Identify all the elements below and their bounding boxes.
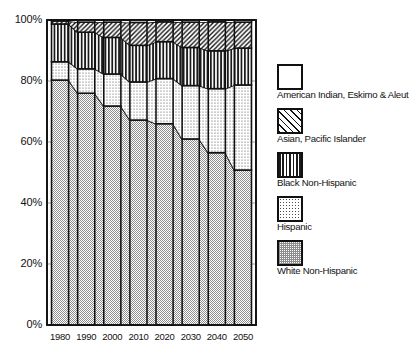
segment-hispanic bbox=[156, 79, 173, 124]
band-connector bbox=[199, 47, 208, 88]
band-connector bbox=[225, 22, 234, 51]
column-2000 bbox=[104, 20, 121, 325]
band-connector bbox=[199, 139, 208, 325]
segment-hispanic bbox=[182, 86, 199, 139]
y-axis-tick-label: 20% bbox=[0, 257, 42, 269]
column-1980 bbox=[52, 20, 69, 325]
segment-black-non-hispanic bbox=[234, 48, 251, 85]
segment-asian-pacific-islander bbox=[208, 22, 225, 51]
segment-black-non-hispanic bbox=[130, 45, 147, 82]
segment-asian-pacific-islander bbox=[130, 22, 147, 45]
band-connector bbox=[173, 124, 182, 325]
segment-black-non-hispanic bbox=[52, 24, 69, 62]
segment-asian-pacific-islander bbox=[104, 22, 121, 37]
legend-item-label: Black Non-Hispanic bbox=[277, 177, 419, 189]
column-2010 bbox=[130, 20, 147, 325]
band-connector bbox=[225, 153, 234, 325]
band-connector bbox=[225, 48, 234, 89]
segment-black-non-hispanic bbox=[156, 42, 173, 79]
y-axis-tick-label: 80% bbox=[0, 74, 42, 86]
band-connector bbox=[199, 22, 208, 51]
legend-item[interactable]: White Non-Hispanic bbox=[277, 240, 419, 277]
stacked-area-plot bbox=[40, 12, 265, 332]
band-connector bbox=[69, 80, 78, 325]
band-connector bbox=[147, 79, 156, 124]
segment-asian-pacific-islander bbox=[78, 22, 95, 32]
band-connector bbox=[121, 106, 130, 325]
legend-swatch-solid-white-icon bbox=[277, 64, 303, 90]
segment-black-non-hispanic bbox=[78, 32, 95, 69]
segment-black-non-hispanic bbox=[182, 47, 199, 85]
column-2020 bbox=[156, 20, 173, 325]
legend-item-label: American Indian, Eskimo & Aleut bbox=[277, 89, 419, 101]
chart-legend: American Indian, Eskimo & AleutAsian, Pa… bbox=[277, 64, 419, 284]
segment-white-non-hispanic bbox=[208, 153, 225, 325]
segment-white-non-hispanic bbox=[234, 170, 251, 325]
segment-hispanic bbox=[130, 82, 147, 120]
band-connector bbox=[147, 42, 156, 82]
y-axis-tick-label: 0% bbox=[0, 318, 42, 330]
segment-asian-pacific-islander bbox=[156, 22, 173, 42]
segment-asian-pacific-islander bbox=[234, 22, 251, 48]
segment-hispanic bbox=[52, 62, 69, 80]
x-axis-tick-label: 2050 bbox=[226, 331, 260, 342]
y-axis-tick-label: 60% bbox=[0, 135, 42, 147]
y-axis-tick-label: 100% bbox=[0, 13, 42, 25]
column-2050 bbox=[234, 20, 251, 325]
y-axis-tick-label: 40% bbox=[0, 196, 42, 208]
segment-hispanic bbox=[208, 89, 225, 153]
column-1990 bbox=[78, 20, 95, 325]
legend-swatch-dot-icon bbox=[277, 196, 303, 222]
band-connector bbox=[147, 22, 156, 45]
chart-root: 100%80%60%40%20%0% 198019902000201020202… bbox=[0, 0, 419, 360]
segment-hispanic bbox=[78, 69, 95, 93]
legend-swatch-vertical-lines-icon bbox=[277, 152, 303, 178]
legend-item[interactable]: Asian, Pacific Islander bbox=[277, 108, 419, 145]
legend-swatch-check-icon bbox=[277, 240, 303, 266]
segment-asian-pacific-islander bbox=[182, 22, 199, 47]
segment-white-non-hispanic bbox=[156, 124, 173, 325]
segment-white-non-hispanic bbox=[130, 120, 147, 325]
legend-item[interactable]: Black Non-Hispanic bbox=[277, 152, 419, 189]
segment-white-non-hispanic bbox=[182, 139, 199, 325]
legend-item-label: White Non-Hispanic bbox=[277, 265, 419, 277]
band-connector bbox=[95, 93, 104, 325]
legend-item[interactable]: American Indian, Eskimo & Aleut bbox=[277, 64, 419, 101]
band-connector bbox=[173, 42, 182, 86]
segment-hispanic bbox=[104, 74, 121, 106]
segment-white-non-hispanic bbox=[78, 93, 95, 325]
band-connector bbox=[95, 32, 104, 74]
legend-item-label: Hispanic bbox=[277, 221, 419, 233]
segment-black-non-hispanic bbox=[104, 37, 121, 74]
segment-hispanic bbox=[234, 85, 251, 170]
legend-item[interactable]: Hispanic bbox=[277, 196, 419, 233]
column-2030 bbox=[182, 20, 199, 325]
segment-white-non-hispanic bbox=[52, 80, 69, 325]
legend-swatch-diagonal-hatch-icon bbox=[277, 108, 303, 134]
legend-item-label: Asian, Pacific Islander bbox=[277, 133, 419, 145]
segment-white-non-hispanic bbox=[104, 106, 121, 325]
segment-black-non-hispanic bbox=[208, 51, 225, 89]
column-2040 bbox=[208, 20, 225, 325]
band-connector bbox=[147, 120, 156, 325]
